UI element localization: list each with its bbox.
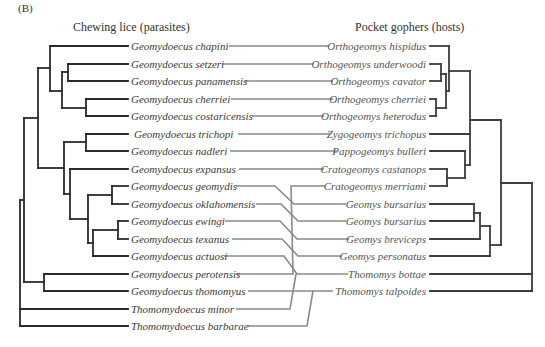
host-label: Orthogeomys hispidus xyxy=(327,40,426,52)
parasite-labels: Geomydoecus chapini Geomydoecus setzeri … xyxy=(131,40,255,332)
parasite-label: Geomydoecus setzeri xyxy=(131,58,224,70)
parasite-label: Geomydoecus chapini xyxy=(131,40,228,52)
host-tree xyxy=(430,46,532,291)
host-label: Geomys bursarius xyxy=(346,198,426,210)
host-label: Pappogeomys bulleri xyxy=(331,145,426,157)
host-label: Geomys personatus xyxy=(340,250,426,262)
parasite-label: Geomydoecus panamensis xyxy=(131,75,247,87)
parasite-label: Geomydoecus cherriei xyxy=(131,93,230,105)
host-label: Thomomys bottae xyxy=(348,268,426,280)
parasite-label: Geomydoecus perotensis xyxy=(131,268,240,280)
assoc-ewingi-breviceps xyxy=(225,221,349,239)
host-label: Cratogeomys merriami xyxy=(324,180,426,192)
assoc-oklahomensis-bursarius xyxy=(256,204,346,221)
host-label: Geomys bursarius xyxy=(346,215,426,227)
parasite-label: Geomydoecus geomydis xyxy=(131,180,237,192)
host-label: Orthogeomys underwoodi xyxy=(311,58,426,70)
parasite-label: Geomydoecus ewingi xyxy=(131,215,225,227)
parasite-label: Geomydoecus trichopi xyxy=(134,128,233,140)
parasite-label: Geomydoecus oklahomensis xyxy=(131,198,255,210)
parasite-label: Geomydoecus expansus xyxy=(131,163,236,175)
host-label: Orthogeomys heterodus xyxy=(321,110,426,122)
host-label: Orthogeomys cavator xyxy=(330,75,426,87)
parasite-tree xyxy=(20,46,128,326)
assoc-texanus-personatus xyxy=(232,239,342,256)
assoc-actuosi-bottae xyxy=(224,256,348,274)
host-label: Cratogeomys castanops xyxy=(321,163,426,175)
parasite-label: Thomomydoecus minor xyxy=(131,303,235,315)
parasite-label: Geomydoecus texanus xyxy=(131,233,229,245)
cophylogeny-diagram: Geomydoecus chapini Geomydoecus setzeri … xyxy=(0,0,545,347)
parasite-label: Geomydoecus costaricensis xyxy=(131,110,253,122)
host-labels: Orthogeomys hispidus Orthogeomys underwo… xyxy=(311,40,426,297)
host-label: Thomomys talpoides xyxy=(335,285,426,297)
parasite-label: Thomomydoecus barbarae xyxy=(131,320,249,332)
parasite-label: Geomydoecus nadleri xyxy=(131,145,227,157)
parasite-label: Geomydoecus thomomyus xyxy=(131,285,246,297)
parasite-label: Geomydoecus actuosi xyxy=(131,250,227,262)
host-label: Geomys breviceps xyxy=(346,233,426,245)
host-label: Orthogeomys cherriei xyxy=(329,93,426,105)
host-label: Zygogeomys trichopus xyxy=(327,128,426,140)
